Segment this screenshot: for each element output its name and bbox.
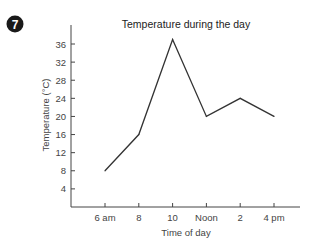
x-tick-label: Noon xyxy=(195,212,218,223)
data-point xyxy=(273,116,274,117)
x-axis-label: Time of day xyxy=(161,227,211,238)
y-tick-label: 24 xyxy=(55,93,66,104)
y-tick-label: 20 xyxy=(55,111,66,122)
data-point xyxy=(138,134,139,135)
y-axis-label: Temperature (°C) xyxy=(40,79,51,152)
y-tick-label: 32 xyxy=(55,57,66,68)
y-tick-label: 8 xyxy=(61,165,66,176)
x-tick-label: 10 xyxy=(167,212,178,223)
y-tick-label: 16 xyxy=(55,129,66,140)
x-tick-label: 8 xyxy=(136,212,141,223)
data-point xyxy=(172,39,173,40)
x-tick-label: 2 xyxy=(238,212,243,223)
chart-title: Temperature during the day xyxy=(122,18,251,30)
data-point xyxy=(240,98,241,99)
series-line-temperature xyxy=(105,39,274,170)
badge-number: 7 xyxy=(12,18,19,32)
x-tick-label: 4 pm xyxy=(263,212,284,223)
y-tick-label: 28 xyxy=(55,75,66,86)
data-point xyxy=(104,170,105,171)
y-tick-label: 36 xyxy=(55,39,66,50)
x-tick-label: 6 am xyxy=(94,212,115,223)
line-chart: 7 Temperature during the day Temperature… xyxy=(0,0,310,248)
y-tick-label: 12 xyxy=(55,147,66,158)
y-tick-label: 4 xyxy=(61,183,66,194)
data-point xyxy=(206,116,207,117)
question-badge: 7 xyxy=(7,16,24,33)
